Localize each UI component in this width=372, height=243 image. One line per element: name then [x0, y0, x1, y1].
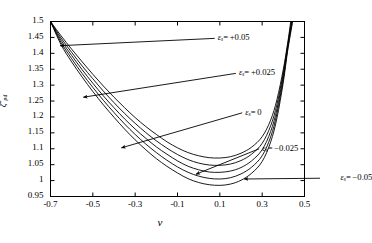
y-tick-label: 1.25 — [0, 95, 44, 105]
epsilon-value: = +0.05 — [223, 32, 249, 42]
y-tick-label: 1.05 — [0, 158, 44, 168]
epsilon-value: = +0.025 — [244, 67, 275, 77]
y-tick-label: 1.2 — [0, 110, 44, 120]
y-tick-label: 1.1 — [0, 142, 44, 152]
y-tick-label: 1.4 — [0, 47, 44, 57]
x-tick-label: -0.5 — [75, 199, 111, 209]
series-annotation: εs= +0.05 — [218, 32, 250, 42]
y-tick-label: 1.3 — [0, 79, 44, 89]
x-tick-label: 0.3 — [244, 199, 280, 209]
series-annotation: εs= −0.05 — [340, 172, 372, 182]
x-tick-label: 0.5 — [287, 199, 323, 209]
series-annotation: εs= +0.025 — [239, 67, 275, 77]
series-annotation: εs= −0.025 — [262, 143, 298, 153]
epsilon-value: = 0 — [251, 107, 262, 117]
y-tick-label: 1.5 — [0, 15, 44, 25]
y-tick-label: 1.15 — [0, 126, 44, 136]
epsilon-value: = −0.05 — [346, 172, 372, 182]
series-annotation: εs= 0 — [245, 107, 261, 117]
y-tick-label: 1.35 — [0, 63, 44, 73]
plot-frame — [51, 22, 305, 197]
y-tick-label: 1.45 — [0, 31, 44, 41]
x-axis-label: ν — [138, 216, 182, 228]
y-tick-label: 1 — [0, 174, 44, 184]
x-tick-label: -0.1 — [160, 199, 196, 209]
x-tick-label: -0.7 — [33, 199, 69, 209]
x-tick-label: -0.3 — [117, 199, 153, 209]
x-tick-label: 0.1 — [202, 199, 238, 209]
epsilon-value: = −0.025 — [268, 143, 299, 153]
